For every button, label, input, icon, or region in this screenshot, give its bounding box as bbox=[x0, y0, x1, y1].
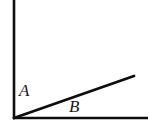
angle-label-b: B bbox=[69, 98, 79, 115]
angle-diagram-figure: A B bbox=[0, 0, 152, 126]
angle-label-a: A bbox=[19, 82, 29, 99]
vertex-point bbox=[13, 117, 16, 120]
